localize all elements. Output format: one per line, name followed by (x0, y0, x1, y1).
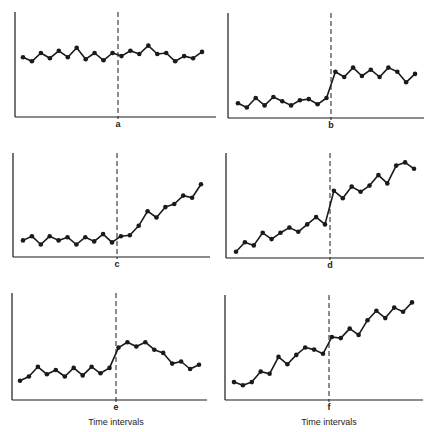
panel-f-data-point (339, 336, 344, 341)
panel-f-data-point (392, 305, 397, 310)
panel-e-data-point (45, 372, 50, 377)
panel-d-data-point (341, 196, 346, 201)
panel-f-data-point (330, 335, 335, 340)
panel-e-data-point (63, 374, 68, 379)
panel-a-data-point (110, 51, 115, 56)
panel-f-data-point (250, 380, 255, 385)
panel-e-data-point (27, 374, 32, 379)
panel-f-data-point (356, 333, 361, 338)
panel-b-data-point (369, 67, 374, 72)
panel-a-data-point (146, 43, 151, 48)
panel-f-data-point (285, 362, 290, 367)
panel-e-data-point (125, 340, 130, 345)
panel-c-data-point (101, 232, 106, 237)
panel-c-data-point (39, 242, 44, 247)
panel-a-data-point (57, 49, 62, 54)
panel-a-data-point (137, 52, 142, 57)
panel-e-data-point (170, 361, 175, 366)
panel-f-data-point (294, 353, 299, 358)
panel-d-data-point (412, 167, 417, 172)
panel-f-data-point (347, 326, 352, 331)
panel-f-data-point (312, 347, 317, 352)
interrupted-time-series-figure: a b c d e f Time intervals Time interval… (0, 0, 431, 432)
panel-c-data-point (154, 215, 159, 220)
panel-f-data-point (410, 300, 415, 305)
x-axis-title-right: Time intervals (301, 417, 357, 427)
panel-c-data-point (21, 238, 26, 243)
panel-b-data-point (404, 80, 409, 85)
panel-e-data-point (107, 366, 112, 371)
panel-f-data-point (241, 383, 246, 388)
panel-b-data-point (253, 96, 258, 101)
panel-c-data-point (163, 205, 168, 210)
panel-d-data-point (314, 215, 319, 220)
panel-a-data-point (101, 58, 106, 63)
panel-b-data-point (280, 99, 285, 104)
panel-c-data-point (199, 182, 204, 187)
panel-a-data-point (164, 51, 169, 56)
panel-e-data-point (134, 344, 139, 349)
panel-b-data-point (245, 105, 250, 110)
panel-f-data-point (232, 380, 237, 385)
panel-b-data-point (271, 95, 276, 100)
panel-b-data-point (262, 103, 267, 108)
panel-b-data-point (342, 75, 347, 80)
panel-b-data-point (351, 65, 356, 70)
panel-b-data-point (333, 70, 338, 75)
panel-a-data-point (39, 51, 44, 56)
panel-a-data-point (74, 45, 79, 50)
panel-a-label: a (115, 119, 120, 129)
panel-e-data-point (98, 371, 103, 376)
panel-e-data-point (18, 378, 23, 383)
panel-a-data-point (66, 55, 71, 60)
panel-e-data-point (188, 367, 193, 372)
panel-c-data-point (181, 193, 186, 198)
panel-a-data-point (173, 59, 178, 64)
panel-f-data-point (267, 372, 272, 377)
panel-c-data-point (83, 235, 88, 240)
panel-d-data-point (234, 249, 239, 254)
panel-d-data-point (260, 231, 265, 236)
panel-d-data-point (278, 231, 283, 236)
panel-d-data-point (403, 160, 408, 165)
panel-c-label: c (114, 259, 119, 269)
panel-a-data-point (155, 52, 160, 57)
panel-d-data-point (287, 225, 292, 230)
panel-d-data-point (349, 184, 354, 189)
panel-b-data-point (360, 74, 365, 79)
panel-b-series-line (238, 68, 415, 108)
panel-c-data-point (110, 240, 115, 245)
panel-a-data-point (21, 55, 26, 60)
plot-canvas (0, 0, 431, 432)
panel-f-data-point (383, 316, 388, 321)
panel-e-data-point (116, 345, 121, 350)
panel-e-data-point (143, 340, 148, 345)
panel-b-data-point (395, 70, 400, 75)
panel-b-data-point (324, 96, 329, 101)
panel-c-data-point (65, 235, 70, 240)
panel-f-label: f (328, 402, 331, 412)
panel-d-data-point (243, 240, 248, 245)
panel-b-data-point (386, 65, 391, 70)
panel-d-data-point (385, 181, 390, 186)
panel-c-data-point (145, 209, 150, 214)
panel-d-data-point (332, 189, 337, 194)
panel-c-data-point (92, 239, 97, 244)
panel-c-data-point (119, 234, 124, 239)
panel-c-data-point (136, 224, 141, 229)
panel-b-data-point (377, 75, 382, 80)
panel-b-data-point (236, 101, 241, 106)
panel-f-data-point (258, 369, 263, 374)
panel-e-data-point (71, 366, 76, 371)
panel-b-label: b (328, 120, 334, 130)
x-axis-title-left: Time intervals (88, 417, 144, 427)
panel-e-data-point (54, 368, 59, 373)
panel-a-data-point (48, 56, 53, 61)
panel-a-data-point (83, 57, 88, 62)
panel-c-data-point (30, 234, 35, 239)
panel-f-data-point (365, 318, 370, 323)
panel-c-data-point (74, 242, 79, 247)
panel-e-data-point (80, 373, 85, 378)
panel-b-data-point (315, 102, 320, 107)
panel-a-data-point (128, 49, 133, 54)
